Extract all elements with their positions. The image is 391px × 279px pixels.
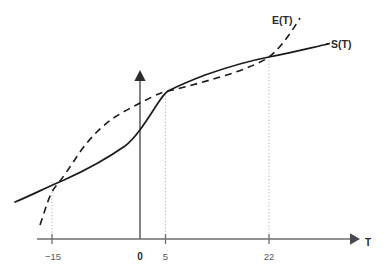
x-tick-label-zero: 0 <box>137 251 143 262</box>
curve-label-e: E(T) <box>272 14 292 26</box>
x-axis-label-t: T <box>365 237 371 248</box>
x-axis <box>37 233 360 245</box>
droplines-group <box>52 57 269 239</box>
curve-label-s: S(T) <box>331 38 351 50</box>
plot-canvas: −15 0 5 22 T E(T) S(T) <box>0 0 391 279</box>
chart-figure: −15 0 5 22 T E(T) S(T) <box>0 0 391 279</box>
s-label-leader-line <box>326 44 330 45</box>
y-axis-arrow-icon <box>134 70 145 81</box>
x-tick-label-minus15: −15 <box>45 251 61 262</box>
x-tick-label-twentytwo: 22 <box>264 251 275 262</box>
x-tick-label-five: 5 <box>163 251 168 262</box>
curve-e-of-t <box>40 18 300 225</box>
y-axis <box>134 70 145 239</box>
x-axis-arrow-icon <box>350 233 360 245</box>
